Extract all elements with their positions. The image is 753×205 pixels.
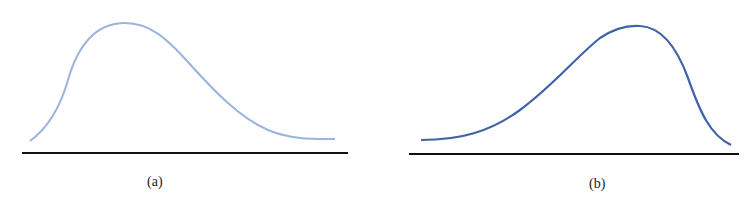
panel-a-label: (a) bbox=[147, 174, 163, 190]
panel-b-curve bbox=[421, 26, 731, 145]
panel-a-curve bbox=[30, 23, 335, 141]
panel-b bbox=[409, 26, 739, 154]
panel-b-label: (b) bbox=[589, 176, 605, 192]
skew-diagram bbox=[0, 0, 753, 205]
panel-a bbox=[22, 23, 348, 153]
